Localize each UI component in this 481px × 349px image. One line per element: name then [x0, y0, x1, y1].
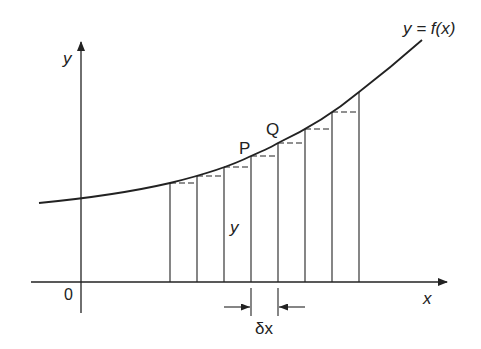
strip-height-label: y	[229, 218, 240, 237]
point-q-label: Q	[266, 120, 279, 139]
curve-f-of-x	[39, 40, 422, 203]
y-axis-label: y	[62, 49, 73, 68]
point-p-label: P	[239, 139, 250, 158]
strip-width-label: δx	[255, 319, 273, 338]
origin-label: 0	[64, 286, 73, 303]
x-axis-label: x	[422, 289, 432, 308]
curve-label: y = f(x)	[402, 19, 455, 38]
area-under-curve-diagram: y x 0 y = f(x) P Q y δx	[0, 0, 481, 349]
strip-dashed-tops	[170, 112, 359, 183]
strip-lines	[170, 92, 359, 282]
delta-x-indicator	[224, 288, 305, 316]
